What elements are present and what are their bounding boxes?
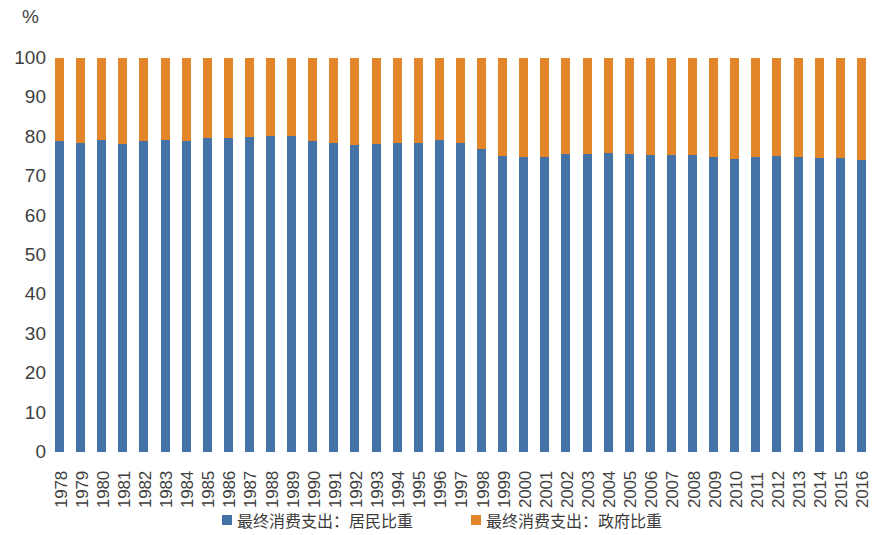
bar-segment-government (118, 58, 127, 143)
bar-2002[interactable] (561, 58, 570, 452)
y-axis-tick-70: 70 (0, 165, 46, 187)
bar-1996[interactable] (435, 58, 444, 452)
x-axis-tick-2007: 2007 (668, 471, 677, 508)
bar-segment-government (815, 58, 824, 158)
x-axis-tick-1978: 1978 (57, 471, 66, 508)
bar-segment-household (287, 136, 296, 452)
bar-segment-household (435, 140, 444, 452)
x-axis-tick-1980: 1980 (99, 471, 108, 508)
bar-1990[interactable] (308, 58, 317, 452)
bar-segment-government (456, 58, 465, 143)
bar-segment-household (456, 143, 465, 452)
bar-segment-government (751, 58, 760, 157)
bar-segment-government (76, 58, 85, 143)
bar-1985[interactable] (203, 58, 212, 452)
bar-2011[interactable] (751, 58, 760, 452)
x-axis-tick-1991: 1991 (331, 471, 340, 508)
bar-segment-household (203, 138, 212, 452)
bar-segment-household (266, 136, 275, 452)
bar-1999[interactable] (498, 58, 507, 452)
bar-1991[interactable] (329, 58, 338, 452)
y-axis-tick-60: 60 (0, 205, 46, 227)
bar-1997[interactable] (456, 58, 465, 452)
x-axis-tick-2002: 2002 (563, 471, 572, 508)
bar-segment-government (583, 58, 592, 154)
x-axis-tick-2014: 2014 (816, 471, 825, 508)
bar-segment-government (414, 58, 423, 143)
bar-1989[interactable] (287, 58, 296, 452)
bar-2007[interactable] (667, 58, 676, 452)
bar-segment-household (224, 138, 233, 452)
bar-1994[interactable] (393, 58, 402, 452)
x-axis-tick-1997: 1997 (457, 471, 466, 508)
bar-1998[interactable] (477, 58, 486, 452)
bar-segment-government (287, 58, 296, 136)
bar-1978[interactable] (55, 58, 64, 452)
bar-2006[interactable] (646, 58, 655, 452)
bar-2008[interactable] (688, 58, 697, 452)
bar-1982[interactable] (139, 58, 148, 452)
bar-segment-household (667, 155, 676, 452)
bar-2010[interactable] (730, 58, 739, 452)
bar-1979[interactable] (76, 58, 85, 452)
bar-2001[interactable] (540, 58, 549, 452)
x-axis-tick-1992: 1992 (352, 471, 361, 508)
bar-segment-government (393, 58, 402, 143)
bar-2004[interactable] (604, 58, 613, 452)
bar-1988[interactable] (266, 58, 275, 452)
bar-segment-household (604, 153, 613, 452)
bar-2012[interactable] (772, 58, 781, 452)
bar-segment-household (372, 144, 381, 452)
x-axis-tick-1985: 1985 (204, 471, 213, 508)
bar-1984[interactable] (182, 58, 191, 452)
x-axis-tick-1983: 1983 (162, 471, 171, 508)
legend-item-household[interactable]: 最终消费支出：居民比重 (222, 508, 413, 532)
bar-2003[interactable] (583, 58, 592, 452)
chart-legend: 最终消费支出：居民比重最终消费支出：政府比重 (0, 508, 884, 532)
y-axis-tick-90: 90 (0, 86, 46, 108)
x-axis-tick-2012: 2012 (774, 471, 783, 508)
bar-segment-household (751, 157, 760, 452)
bar-2005[interactable] (625, 58, 634, 452)
bar-2000[interactable] (519, 58, 528, 452)
bar-segment-household (688, 155, 697, 452)
bar-segment-government (625, 58, 634, 154)
bar-1983[interactable] (161, 58, 170, 452)
x-axis-tick-1993: 1993 (373, 471, 382, 508)
x-axis-tick-1995: 1995 (415, 471, 424, 508)
bar-1980[interactable] (97, 58, 106, 452)
bar-segment-government (498, 58, 507, 156)
bar-2013[interactable] (794, 58, 803, 452)
bar-2016[interactable] (857, 58, 866, 452)
bar-segment-government (435, 58, 444, 140)
bar-2015[interactable] (836, 58, 845, 452)
x-axis-tick-2010: 2010 (732, 471, 741, 508)
x-axis-tick-1988: 1988 (268, 471, 277, 508)
bar-2009[interactable] (709, 58, 718, 452)
x-axis-tick-1979: 1979 (78, 471, 87, 508)
bar-segment-government (266, 58, 275, 136)
bar-segment-government (836, 58, 845, 158)
bar-segment-household (414, 143, 423, 452)
bar-1995[interactable] (414, 58, 423, 452)
bar-segment-household (625, 154, 634, 452)
bar-segment-household (730, 159, 739, 452)
bar-segment-household (139, 141, 148, 452)
bar-segment-government (308, 58, 317, 141)
bar-1986[interactable] (224, 58, 233, 452)
bar-2014[interactable] (815, 58, 824, 452)
x-axis-tick-1998: 1998 (479, 471, 488, 508)
x-axis-tick-1986: 1986 (225, 471, 234, 508)
x-axis-tick-2015: 2015 (837, 471, 846, 508)
bar-1993[interactable] (372, 58, 381, 452)
bar-segment-household (118, 144, 127, 453)
bar-1987[interactable] (245, 58, 254, 452)
bar-segment-household (561, 154, 570, 452)
bar-1992[interactable] (350, 58, 359, 452)
x-axis-tick-1989: 1989 (289, 471, 298, 508)
bar-segment-government (688, 58, 697, 155)
bar-1981[interactable] (118, 58, 127, 452)
legend-item-government[interactable]: 最终消费支出：政府比重 (471, 508, 662, 532)
bar-segment-household (245, 137, 254, 452)
bar-segment-government (519, 58, 528, 157)
